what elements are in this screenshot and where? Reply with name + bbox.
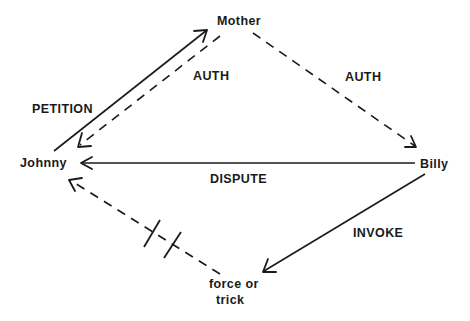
- node-billy: Billy: [420, 157, 448, 171]
- label-petition: PETITION: [32, 102, 93, 116]
- node-mother: Mother: [217, 14, 261, 28]
- edge-auth-johnny: [78, 36, 220, 147]
- node-johnny: Johnny: [20, 156, 67, 170]
- edge-dispute: [81, 157, 415, 169]
- auth-billy-arrowhead-icon: [405, 136, 416, 147]
- auth-billy-line: [253, 33, 415, 146]
- label-auth-left: AUTH: [193, 69, 229, 83]
- block-tick-1-icon: [144, 220, 160, 247]
- block-tick-2-icon: [164, 232, 181, 258]
- edge-auth-billy: [253, 33, 416, 147]
- auth-johnny-line: [80, 36, 220, 145]
- invoke-line: [264, 174, 425, 271]
- node-force-line1: force or: [209, 277, 259, 291]
- edge-invoke: [263, 174, 425, 272]
- label-invoke: INVOKE: [353, 226, 403, 240]
- node-force-line2: trick: [216, 293, 244, 307]
- blocked-line: [70, 180, 220, 274]
- edge-petition: [54, 30, 207, 151]
- petition-line: [54, 30, 207, 151]
- relationship-diagram: Mother Johnny Billy force or trick PETIT…: [0, 0, 470, 321]
- blocked-arrowhead-icon: [69, 178, 82, 191]
- label-dispute: DISPUTE: [210, 172, 267, 186]
- edge-blocked: [69, 178, 220, 274]
- label-auth-right: AUTH: [345, 70, 381, 84]
